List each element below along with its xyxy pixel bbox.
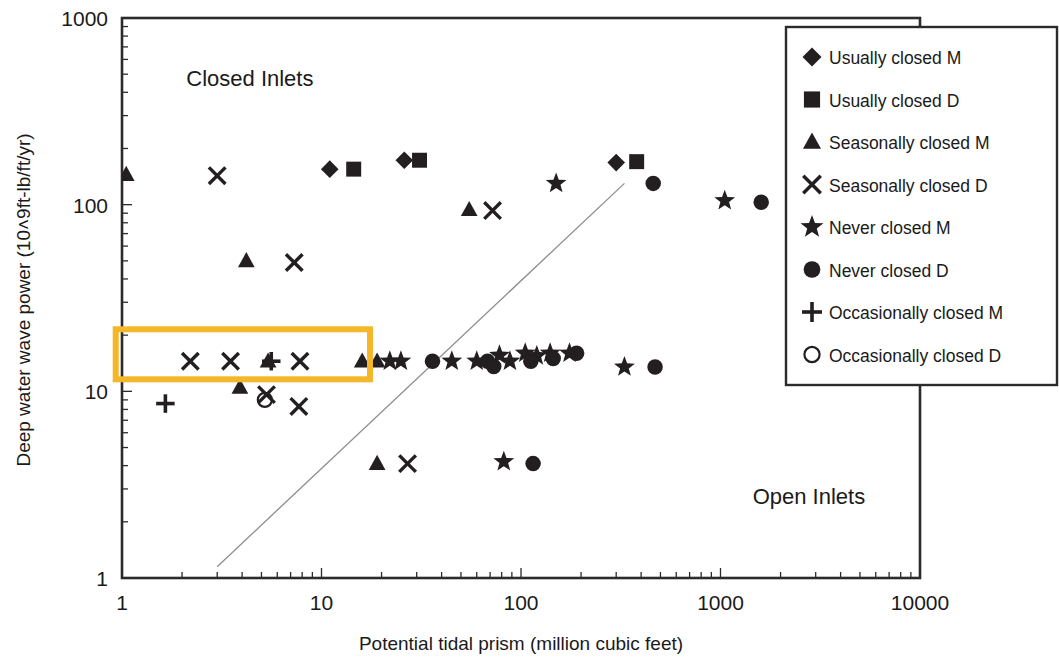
legend-label: Never closed D	[829, 261, 949, 281]
x-axis-ticks	[122, 568, 920, 578]
data-point	[262, 352, 280, 370]
data-point	[545, 351, 560, 366]
legend-item-occasionally-closed-m[interactable]: Occasionally closed M	[802, 302, 1003, 323]
legend-background	[786, 27, 1057, 385]
data-point	[493, 451, 514, 471]
data-point	[346, 162, 361, 177]
x-tick-label: 1000	[697, 591, 744, 614]
scatter-plot: 110100100010000 1101001000 Closed Inlets…	[0, 0, 1059, 659]
data-point	[607, 154, 625, 172]
data-point	[523, 353, 538, 368]
region-label: Closed Inlets	[186, 66, 313, 91]
data-point	[629, 154, 644, 169]
data-point	[461, 201, 478, 216]
region-label: Open Inlets	[753, 484, 866, 509]
y-tick-label: 100	[73, 194, 108, 217]
x-axis-label: Potential tidal prism (million cubic fee…	[359, 633, 683, 654]
legend-label: Seasonally closed M	[829, 133, 990, 153]
highlight-box	[116, 329, 370, 379]
legend-label: Never closed M	[829, 218, 951, 238]
y-tick-label: 10	[85, 380, 108, 403]
data-point	[486, 359, 501, 374]
legend-item-seasonally-closed-d[interactable]: Seasonally closed D	[803, 176, 987, 196]
data-point	[156, 394, 174, 412]
data-point	[484, 202, 501, 219]
y-tick-label: 1	[96, 567, 108, 590]
data-point	[525, 456, 540, 471]
series-usually-closed-m	[321, 151, 625, 178]
series-occasionally-closed-m	[156, 352, 280, 413]
series-seasonally-closed-d	[182, 167, 501, 472]
trend-line	[217, 183, 624, 566]
data-markers	[118, 151, 769, 471]
data-point	[321, 160, 339, 178]
data-point	[222, 353, 239, 370]
data-point	[395, 151, 413, 169]
data-point	[209, 167, 226, 184]
data-point	[286, 254, 303, 271]
x-tick-label: 100	[503, 591, 538, 614]
data-point	[182, 353, 199, 370]
legend-item-occasionally-closed-d[interactable]: Occasionally closed D	[804, 346, 1001, 366]
data-point	[118, 166, 135, 181]
legend-label: Usually closed D	[829, 91, 959, 111]
data-point	[753, 195, 768, 210]
legend-label: Occasionally closed M	[829, 303, 1003, 323]
x-tick-label: 1	[116, 591, 128, 614]
data-point	[569, 345, 584, 360]
legend-item-seasonally-closed-m[interactable]: Seasonally closed M	[803, 133, 990, 154]
data-point	[238, 252, 255, 267]
data-point	[714, 190, 735, 210]
legend-label: Usually closed M	[829, 48, 961, 68]
data-point	[647, 359, 662, 374]
x-tick-label: 10	[310, 591, 333, 614]
data-point	[546, 172, 567, 192]
y-axis-tick-labels: 1101001000	[61, 7, 108, 590]
chart-root: 110100100010000 1101001000 Closed Inlets…	[0, 0, 1059, 659]
data-point	[614, 356, 635, 376]
data-point	[399, 455, 416, 472]
x-axis-tick-labels: 110100100010000	[116, 591, 949, 614]
series-seasonally-closed-m	[118, 166, 478, 470]
y-axis-label: Deep water wave power (10˄9ft-lb/ft/yr)	[13, 133, 34, 466]
legend-marker-circle	[804, 261, 821, 278]
series-usually-closed-d	[346, 153, 644, 177]
y-tick-label: 1000	[61, 7, 108, 30]
legend: Usually closed MUsually closed DSeasonal…	[786, 27, 1057, 385]
data-point	[369, 455, 386, 470]
data-point	[412, 153, 427, 168]
data-point	[292, 353, 309, 370]
legend-label: Seasonally closed D	[829, 176, 988, 196]
data-point	[291, 398, 308, 415]
y-axis-ticks	[122, 18, 132, 578]
region-annotations: Closed InletsOpen Inlets	[186, 66, 865, 508]
data-point	[425, 353, 440, 368]
data-point	[645, 176, 660, 191]
legend-marker-square	[804, 91, 820, 107]
series-never-closed-m	[379, 172, 735, 470]
x-tick-label: 10000	[891, 591, 949, 614]
legend-label: Occasionally closed D	[829, 346, 1001, 366]
